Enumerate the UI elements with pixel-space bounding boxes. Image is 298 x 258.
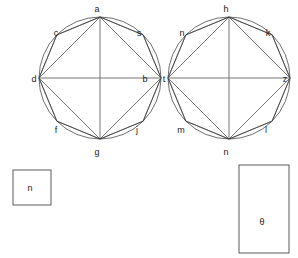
- left-circle-vertex-label-a: a: [94, 4, 99, 14]
- right-rectangle: [239, 165, 289, 253]
- left-polygon-circle: asbjgfdc: [31, 4, 161, 157]
- right-circle-vertex-label-k: k: [266, 28, 271, 38]
- right-circle-chord: [168, 35, 186, 78]
- left-circle-vertex-label-c: c: [54, 28, 59, 38]
- right-circle-chord: [272, 78, 290, 121]
- right-circle-chord: [272, 35, 290, 78]
- left-circle-vertex-label-b: b: [142, 74, 147, 84]
- right-circle-chord: [168, 17, 229, 78]
- right-circle-vertex-label-n1: n: [179, 28, 184, 38]
- right-circle-chord: [186, 17, 229, 35]
- right-polygon-circle: hkzlnmtn: [163, 4, 290, 157]
- left-circle-vertex-label-j: j: [135, 125, 138, 135]
- left-rectangle-label: n: [27, 183, 32, 193]
- left-circle-chord: [39, 17, 100, 78]
- left-circle-chord: [100, 78, 161, 139]
- rectangles-group: nθ: [13, 165, 289, 253]
- right-circle-chord: [229, 17, 290, 78]
- left-circle-vertex-label-d: d: [31, 74, 36, 84]
- left-circle-chord: [39, 35, 57, 78]
- figure-canvas: asbjgfdc hkzlnmtn nθ: [0, 0, 298, 258]
- left-circle-chord: [57, 121, 100, 139]
- right-circle-chord: [186, 121, 229, 139]
- right-circle-vertex-label-z: z: [283, 74, 288, 84]
- left-circle-chord: [143, 35, 161, 78]
- left-circle-chord: [39, 78, 100, 139]
- right-circle-chord: [229, 78, 290, 139]
- right-circle-chord: [168, 78, 186, 121]
- right-circle-vertex-label-h: h: [223, 4, 228, 14]
- left-circle-vertex-label-s: s: [137, 28, 142, 38]
- right-circle-vertex-label-t: t: [163, 74, 166, 84]
- right-circle-vertex-label-m: m: [177, 125, 185, 135]
- left-circle-chord: [57, 17, 100, 35]
- geometry-figure: asbjgfdc hkzlnmtn nθ: [0, 0, 298, 258]
- right-circle-vertex-label-l: l: [265, 125, 267, 135]
- right-rectangle-label: θ: [259, 217, 264, 227]
- left-circle-chord: [100, 17, 161, 78]
- left-circle-chord: [143, 78, 161, 121]
- left-circle-vertex-label-f: f: [55, 125, 58, 135]
- left-circle-chord: [39, 78, 57, 121]
- right-circle-vertex-label-n2: n: [223, 147, 228, 157]
- left-circle-vertex-label-g: g: [94, 147, 99, 157]
